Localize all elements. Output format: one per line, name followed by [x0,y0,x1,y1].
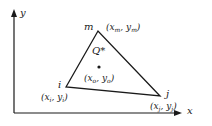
y-axis-arrow-icon [11,9,17,17]
interior-point-label: Q* [92,46,105,56]
vertex-m-label: m [84,22,93,32]
vertex-m-coords: (xm, ym) [106,23,140,33]
vertex-i-label: i [58,80,61,90]
triangle-element-diagram [0,0,212,126]
vertex-i-coords: (xi, yi) [41,93,68,103]
vertex-j-coords: (xj, yj) [150,102,177,112]
x-axis-label: x [187,106,193,116]
triangle-element [66,31,160,96]
vertex-j-label: j [166,89,169,99]
interior-point-coords: (xo, yo) [84,74,114,84]
y-axis-label: y [20,8,26,18]
interior-point-dot [97,65,100,68]
